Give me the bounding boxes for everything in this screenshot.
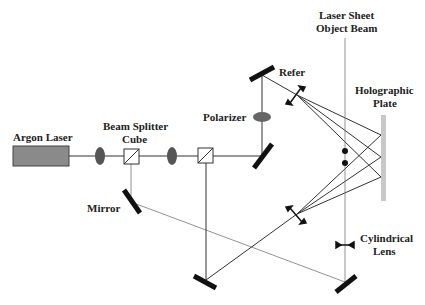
argon-laser <box>13 146 69 166</box>
diverging-lens-upper <box>286 86 305 105</box>
label-beam-splitter: Beam Splitter <box>103 120 168 132</box>
mirror-bottom-left <box>194 276 216 288</box>
label-refer: Refer <box>279 66 305 78</box>
object-particle-1 <box>342 148 348 154</box>
holography-setup-diagram: Argon Laser Beam Splitter Cube Polarizer… <box>0 0 425 305</box>
object-particle-2 <box>342 160 348 166</box>
label-plate: Plate <box>373 97 397 109</box>
label-mirror: Mirror <box>87 202 121 214</box>
label-laser-sheet: Laser Sheet <box>319 9 374 21</box>
lens-1 <box>95 147 105 165</box>
label-holographic: Holographic <box>355 84 414 96</box>
polarizer <box>253 112 271 122</box>
lens-2 <box>167 147 177 165</box>
beam-splitter-cube-2 <box>198 148 213 163</box>
holographic-plate <box>381 115 386 201</box>
label-object-beam: Object Beam <box>316 22 377 34</box>
mirror-bottom-right <box>336 276 356 292</box>
label-lens: Lens <box>373 245 396 257</box>
beam-paths <box>69 38 381 282</box>
mirror-left <box>124 190 140 213</box>
label-argon-laser: Argon Laser <box>13 131 73 143</box>
label-polarizer: Polarizer <box>203 111 246 123</box>
beam-splitter-cube-1 <box>124 149 139 164</box>
label-cylindrical: Cylindrical <box>360 232 413 244</box>
label-cube: Cube <box>122 133 147 145</box>
